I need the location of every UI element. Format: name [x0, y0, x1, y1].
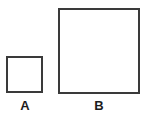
square-label-b: B [58, 99, 140, 112]
square-shape-a [6, 56, 43, 93]
square-shape-b [58, 8, 140, 94]
square-label-a: A [0, 99, 50, 112]
shape-comparison-figure: A B [0, 0, 147, 124]
